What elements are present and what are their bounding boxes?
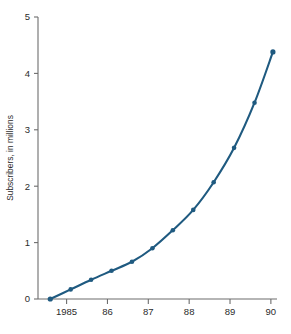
x-tick-label: 90 [266, 306, 277, 317]
x-tick-label: 89 [225, 306, 236, 317]
chart-background [0, 0, 291, 334]
y-tick-label: 4 [25, 68, 30, 79]
y-tick-label: 3 [25, 124, 30, 135]
data-point [270, 49, 275, 54]
data-point [48, 296, 53, 301]
data-point [211, 180, 216, 185]
subscribers-line-chart: 012345 Subscribers, in millions 19858687… [0, 0, 291, 334]
data-point [191, 208, 196, 213]
x-tick-label: 87 [143, 306, 154, 317]
x-tick-label: 1985 [56, 306, 77, 317]
y-tick-label: 2 [25, 181, 30, 192]
y-axis-title: Subscribers, in millions [5, 115, 15, 201]
data-point [150, 246, 155, 251]
data-point [252, 100, 257, 105]
data-point [109, 269, 114, 274]
y-tick-label: 0 [25, 293, 30, 304]
y-tick-label: 1 [25, 237, 30, 248]
y-tick-label: 5 [25, 11, 30, 22]
data-point [68, 287, 73, 292]
x-tick-label: 86 [102, 306, 113, 317]
x-tick-label: 88 [184, 306, 195, 317]
data-point [130, 259, 135, 264]
data-point [89, 278, 94, 283]
data-point [232, 146, 237, 151]
data-point [171, 228, 176, 233]
